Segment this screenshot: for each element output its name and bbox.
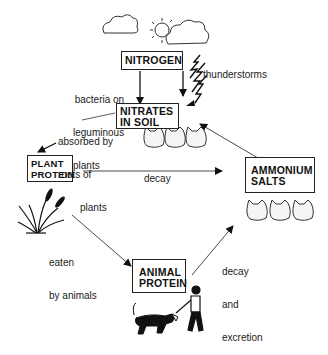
node-nitrates-in-soil: NITRATES IN SOIL — [116, 103, 179, 129]
node-ammonium-label-2: SALTS — [251, 176, 309, 187]
node-animal-protein: ANIMAL PROTEIN — [132, 259, 186, 293]
node-animal-label-2: PROTEIN — [139, 278, 179, 289]
cloud-icon — [103, 15, 138, 33]
soil-bag-icon — [247, 200, 313, 220]
node-nitrogen-label: NITROGEN — [125, 54, 182, 66]
edge-label-thunderstorms: thunderstorms — [203, 69, 267, 80]
soil-bag-icon — [144, 127, 206, 147]
edge-label-decay: decay — [144, 173, 171, 184]
node-nitrates-label-2: IN SOIL — [120, 117, 175, 128]
edge-label-eaten: eaten by animals — [49, 235, 97, 312]
dog-icon — [133, 303, 178, 334]
node-ammonium-salts: AMMONIUM SALTS — [245, 157, 315, 193]
cloud-icon — [166, 20, 209, 44]
edge-label-decay-excretion: decay and excretion — [222, 244, 263, 354]
node-nitrogen: NITROGEN — [121, 51, 183, 70]
edge-label-absorbed: absorbed by roots of plants — [58, 114, 113, 224]
